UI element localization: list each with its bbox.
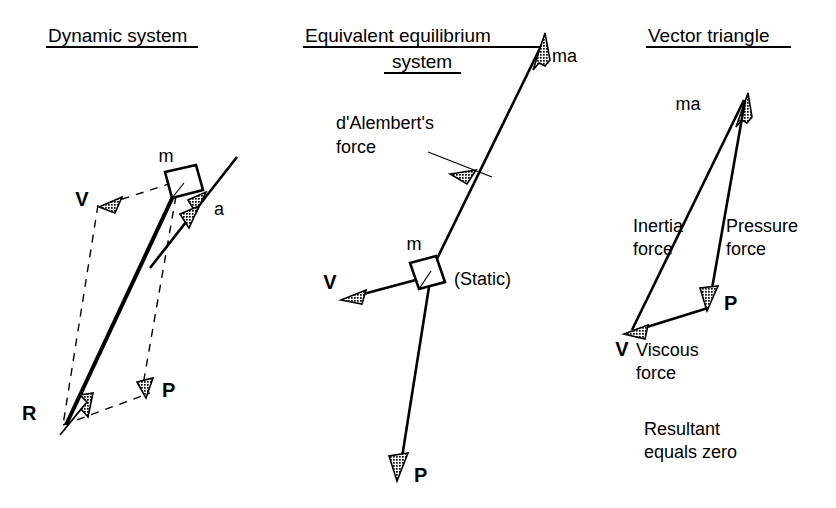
label-mass-equilibrium: m (407, 234, 422, 254)
panel-title-vector-triangle: Vector triangle (648, 25, 769, 46)
label-pressure-dynamic: P (162, 379, 175, 401)
panel-title-dynamic-system: Dynamic system (48, 25, 187, 46)
label-pressure-equilibrium: P (414, 464, 427, 486)
label-pressure-force-line2: force (726, 239, 766, 259)
label-pressure-vertex: P (724, 292, 737, 314)
label-dalembert-line1: d'Alembert's (336, 113, 434, 133)
diagram-page: Dynamic system m V a (0, 0, 836, 508)
note-resultant-line2: equals zero (644, 442, 737, 462)
label-acceleration-dynamic: a (214, 199, 225, 219)
label-pressure-force-line1: Pressure (726, 216, 798, 236)
label-inertia-ma: ma (552, 46, 578, 66)
label-viscous-vertex: V (615, 338, 629, 360)
label-inertia-force-line2: force (633, 239, 673, 259)
label-static: (Static) (454, 269, 511, 289)
label-viscous-force-line2: force (636, 363, 676, 383)
label-ma-apex: ma (675, 94, 701, 114)
label-dalembert-line2: force (336, 137, 376, 157)
panel-title-equilibrium-line2: system (392, 51, 452, 72)
panel-title-equilibrium-line1: Equivalent equilibrium (305, 25, 491, 46)
label-mass-dynamic: m (159, 146, 174, 166)
label-viscous-force-line1: Viscous (636, 340, 699, 360)
label-velocity-dynamic: V (75, 188, 89, 210)
note-resultant-line1: Resultant (644, 419, 720, 439)
label-resultant-dynamic: R (22, 402, 37, 424)
label-inertia-force-line1: Inertia (633, 216, 684, 236)
dalembert-principle-figure: Dynamic system m V a (0, 0, 836, 508)
label-velocity-equilibrium: V (323, 271, 337, 293)
